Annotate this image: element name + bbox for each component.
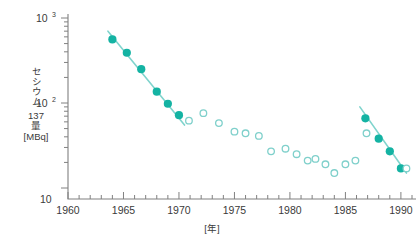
data-point-open [242,130,249,137]
y-ticklabel-1000-exp: 3 [52,11,56,18]
x-axis-ticks [68,192,412,199]
data-point-open [322,161,329,168]
data-point-filled [375,135,383,143]
data-point-open [352,157,359,164]
data-point-open [312,156,319,163]
x-ticklabel-1975: 1975 [223,204,247,216]
data-point-open [186,117,193,124]
y-axis-title-vertical: セシウム [31,66,42,108]
data-point-open [200,110,207,117]
y-axis-title-quantity: 量 [10,121,62,132]
x-ticklabel-1990: 1990 [389,204,413,216]
data-point-open [403,165,410,172]
data-point-filled [175,111,183,119]
data-point-filled [123,49,131,57]
data-point-open [256,133,263,140]
y-axis-ticks [61,18,68,188]
x-ticklabel-1985: 1985 [334,204,358,216]
chart-canvas: 1960196519701975198019851990 10 3 10 2 1… [0,0,420,238]
data-point-filled [153,88,161,96]
data-points [108,35,409,176]
x-ticklabel-1965: 1965 [112,204,136,216]
x-ticklabel-1980: 1980 [278,204,302,216]
x-ticklabel-1960: 1960 [56,204,80,216]
data-point-filled [164,100,172,108]
data-point-open [342,161,349,168]
y-axis-title-unit: [MBq] [10,132,62,143]
data-point-filled [137,65,145,73]
y-ticklabel-10: 10 [40,193,52,205]
y-ticklabel-1000-base: 10 [36,12,48,24]
chart-figure: セシウム 137 量 [MBq] 19601965197019751980198… [0,0,420,238]
data-point-filled [386,147,394,155]
data-point-filled [108,35,116,43]
fit-lines [108,31,407,173]
axis-lines [68,14,416,199]
x-axis-title: [年] [204,223,219,234]
data-point-filled [361,114,369,122]
fit-early [108,31,185,125]
x-axis-ticklabels: 1960196519701975198019851990 [56,204,412,216]
x-ticklabel-1970: 1970 [167,204,191,216]
data-point-open [304,157,311,164]
data-point-open [268,148,275,155]
data-point-open [231,128,238,135]
y-axis-title: セシウム 137 量 [MBq] [10,66,62,142]
data-point-open [363,130,370,137]
data-point-open [216,120,223,127]
data-point-open [293,151,300,158]
data-point-open [331,170,338,177]
data-point-open [282,145,289,152]
